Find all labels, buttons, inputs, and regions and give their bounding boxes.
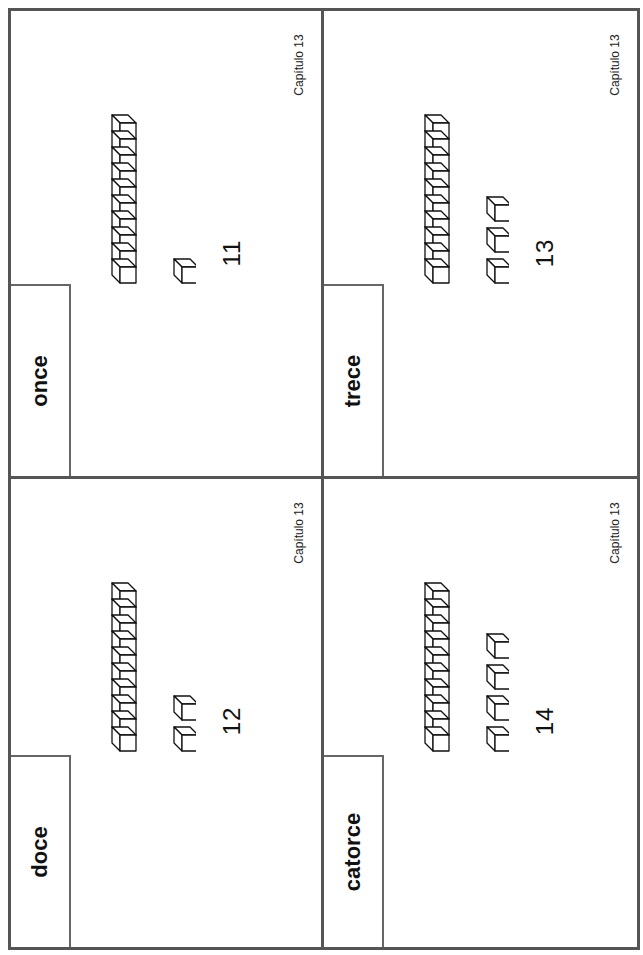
cube-front-face: [120, 735, 136, 751]
rod-cube: [112, 727, 136, 751]
number-word: catorce: [340, 813, 366, 891]
chapter-label: Capítulo 13: [607, 25, 623, 105]
card-sheet: Capítulo 13 11 once Capítulo 13 13 trece…: [8, 8, 640, 950]
base-ten-blocks: [409, 107, 509, 287]
unit-cube: [174, 727, 196, 751]
word-label-box: doce: [11, 755, 71, 947]
rod-cube: [425, 259, 449, 283]
cube-front-face: [182, 267, 196, 283]
ten-rod: [425, 115, 449, 283]
base-ten-blocks: [96, 107, 196, 287]
unit-cube: [487, 665, 509, 689]
ten-rod: [112, 115, 136, 283]
number-word: doce: [27, 826, 53, 877]
numeral-text: 12: [218, 707, 246, 736]
cube-front-face: [495, 236, 509, 252]
chapter-label: Capítulo 13: [291, 493, 307, 573]
cube-front-face: [495, 642, 509, 658]
cube-front-face: [495, 673, 509, 689]
ten-rod: [112, 583, 136, 751]
cube-front-face: [495, 704, 509, 720]
number-card-trece: Capítulo 13 13 trece: [324, 11, 637, 479]
chapter-text: Capítulo 13: [608, 502, 622, 563]
number-word: once: [27, 355, 53, 406]
unit-cube: [487, 197, 509, 221]
unit-cube: [487, 727, 509, 751]
unit-cube: [487, 259, 509, 283]
base-ten-blocks: [409, 575, 509, 755]
chapter-text: Capítulo 13: [608, 34, 622, 95]
number-card-once: Capítulo 13 11 once: [11, 11, 324, 479]
number-card-catorce: Capítulo 13 14 catorce: [324, 479, 637, 947]
rod-cube: [112, 259, 136, 283]
word-label-box: trece: [324, 284, 384, 476]
chapter-text: Capítulo 13: [292, 502, 306, 563]
unit-cube: [487, 696, 509, 720]
unit-cube: [487, 634, 509, 658]
cube-front-face: [433, 267, 449, 283]
numeral-text: 11: [218, 240, 246, 267]
numeral: 11: [220, 233, 244, 273]
ten-rod: [425, 583, 449, 751]
numeral-text: 13: [531, 239, 559, 268]
unit-cube: [174, 696, 196, 720]
rod-cube: [425, 727, 449, 751]
chapter-label: Capítulo 13: [607, 493, 623, 573]
word-label-box: once: [11, 284, 71, 476]
numeral: 13: [533, 233, 557, 273]
cube-front-face: [495, 735, 509, 751]
number-word: trece: [340, 355, 366, 408]
number-card-doce: Capítulo 13 12 doce: [11, 479, 324, 947]
cube-front-face: [495, 267, 509, 283]
numeral: 12: [220, 701, 244, 741]
numeral: 14: [533, 701, 557, 741]
cube-front-face: [182, 704, 196, 720]
chapter-label: Capítulo 13: [291, 25, 307, 105]
unit-cube: [487, 228, 509, 252]
unit-cube: [174, 259, 196, 283]
cube-front-face: [495, 205, 509, 221]
chapter-text: Capítulo 13: [292, 34, 306, 95]
cube-front-face: [182, 735, 196, 751]
cube-front-face: [120, 267, 136, 283]
base-ten-blocks: [96, 575, 196, 755]
cube-front-face: [433, 735, 449, 751]
numeral-text: 14: [531, 707, 559, 736]
word-label-box: catorce: [324, 755, 384, 947]
